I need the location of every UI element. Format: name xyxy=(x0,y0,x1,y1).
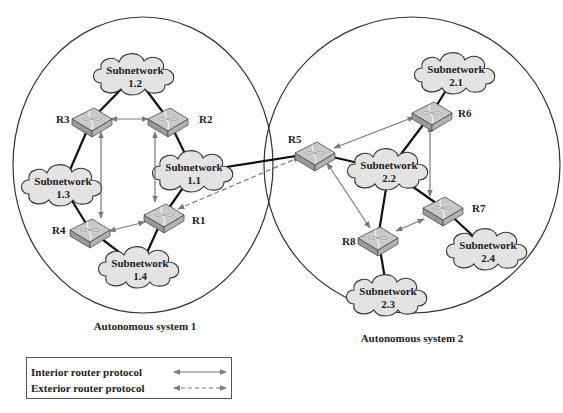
legend-box: Interior router protocol Exterior router… xyxy=(26,357,232,399)
subnetwork-2-1: Subnetwork2.1 xyxy=(415,53,495,94)
router-label: R3 xyxy=(56,113,70,125)
legend-label-interior: Interior router protocol xyxy=(31,366,142,378)
subnetwork-number: 1.4 xyxy=(133,270,147,282)
subnetwork-2-3: Subnetwork2.3 xyxy=(347,275,427,316)
router-label: R2 xyxy=(199,113,213,125)
router-label: R1 xyxy=(192,214,205,226)
subnetwork-label: Subnetwork xyxy=(360,159,418,171)
subnetwork-number: 2.2 xyxy=(382,172,396,184)
subnetwork-number: 2.4 xyxy=(481,252,495,264)
router-label: R8 xyxy=(342,235,356,247)
subnetwork-number: 2.1 xyxy=(449,76,463,88)
subnetwork-2-4: Subnetwork2.4 xyxy=(447,229,527,270)
router-label: R7 xyxy=(472,202,486,214)
subnetwork-1-4: Subnetwork1.4 xyxy=(99,247,179,288)
router-icon xyxy=(72,108,112,137)
subnetwork-2-2: Subnetwork2.2 xyxy=(348,149,428,190)
subnetwork-1-1: Subnetwork1.1 xyxy=(153,151,233,192)
subnetwork-label: Subnetwork xyxy=(427,63,485,75)
subnetwork-label: Subnetwork xyxy=(359,285,417,297)
subnetwork-number: 1.1 xyxy=(187,174,201,186)
subnetwork-number: 2.3 xyxy=(381,298,395,310)
router-label: R5 xyxy=(288,133,302,145)
router-r1: R1 xyxy=(144,204,205,233)
autonomous-system-label: Autonomous system 2 xyxy=(361,332,464,344)
interior-protocol-arrow xyxy=(109,222,145,231)
interior-protocol-arrow xyxy=(396,219,424,231)
router-icon xyxy=(70,219,110,248)
router-r2: R2 xyxy=(148,108,213,137)
legend-label-exterior: Exterior router protocol xyxy=(31,382,144,394)
router-icon xyxy=(412,102,452,131)
router-icon xyxy=(148,108,188,137)
subnetworks: Subnetwork1.1Subnetwork1.2Subnetwork1.3S… xyxy=(22,53,527,316)
subnetwork-label: Subnetwork xyxy=(34,175,92,187)
router-label: R6 xyxy=(458,107,472,119)
subnetwork-label: Subnetwork xyxy=(165,161,223,173)
exterior-protocol-line-icon xyxy=(172,382,228,394)
interior-protocol-line-icon xyxy=(172,366,228,378)
legend-item-exterior: Exterior router protocol xyxy=(31,381,144,395)
router-icon xyxy=(358,227,398,256)
subnetwork-1-2: Subnetwork1.2 xyxy=(94,54,174,95)
legend-item-interior: Interior router protocol xyxy=(31,365,142,379)
autonomous-system-label: Autonomous system 1 xyxy=(94,320,197,332)
subnetwork-1-3: Subnetwork1.3 xyxy=(22,165,102,206)
router-r4: R4 xyxy=(52,219,110,248)
router-r8: R8 xyxy=(342,227,398,256)
router-r3: R3 xyxy=(56,108,112,137)
interior-protocol-arrow xyxy=(334,117,414,148)
network-diagram: Autonomous system 1Autonomous system 2 S… xyxy=(0,0,563,413)
subnetwork-number: 1.3 xyxy=(56,188,70,200)
subnetwork-number: 1.2 xyxy=(128,77,142,89)
subnetwork-label: Subnetwork xyxy=(111,257,169,269)
subnetwork-label: Subnetwork xyxy=(459,239,517,251)
subnetwork-label: Subnetwork xyxy=(106,64,164,76)
router-label: R4 xyxy=(52,224,66,236)
